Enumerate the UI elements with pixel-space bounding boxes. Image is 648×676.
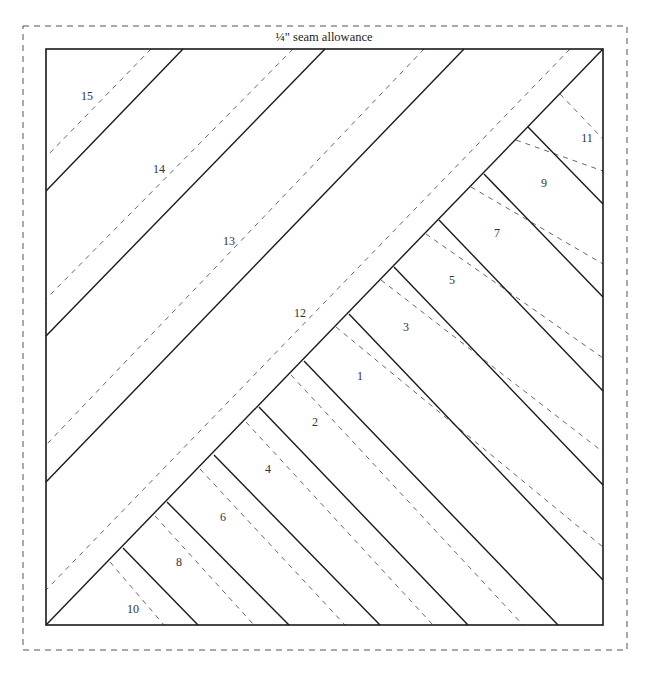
dashed-cut-line (291, 375, 523, 625)
piece-label-1: 1 (357, 370, 363, 382)
pattern-diagram (0, 0, 648, 676)
dashed-cut-line (46, 49, 570, 590)
dashed-cut-line (381, 280, 603, 452)
seam-allowance-title: ¼" seam allowance (0, 30, 648, 45)
piece-label-10: 10 (127, 603, 139, 615)
piece-label-13: 13 (223, 235, 235, 247)
piece-label-3: 3 (403, 321, 409, 333)
solid-seam-line (439, 220, 603, 391)
piece-label-12: 12 (294, 307, 306, 319)
solid-seam-line (394, 267, 603, 485)
seam-allowance-border (23, 26, 627, 650)
dashed-cut-line (200, 469, 345, 625)
sewing-lines (46, 49, 603, 625)
dashed-cut-line (426, 234, 603, 358)
dashed-cut-line (46, 49, 293, 299)
solid-seam-line (484, 174, 603, 297)
piece-label-4: 4 (265, 463, 271, 475)
piece-label-14: 14 (153, 163, 165, 175)
piece-label-15: 15 (81, 90, 93, 102)
piece-label-9: 9 (541, 177, 547, 189)
piece-label-2: 2 (312, 416, 318, 428)
dashed-cut-line (336, 327, 603, 547)
dashed-cut-line (471, 187, 603, 264)
piece-label-6: 6 (220, 511, 226, 523)
dashed-cut-line (46, 49, 151, 157)
dashed-cut-line (46, 49, 424, 445)
solid-seam-line (167, 502, 289, 625)
piece-label-7: 7 (494, 227, 500, 239)
allowance-dashed-rect (23, 26, 627, 650)
piece-label-8: 8 (176, 556, 182, 568)
piece-label-11: 11 (581, 132, 593, 144)
solid-seam-line (46, 49, 464, 482)
solid-seam-line (259, 407, 468, 625)
dashed-cut-line (246, 422, 433, 625)
dashed-cut-line (155, 516, 254, 625)
main-diagonal-seam-line (46, 49, 603, 625)
piece-label-5: 5 (449, 274, 455, 286)
